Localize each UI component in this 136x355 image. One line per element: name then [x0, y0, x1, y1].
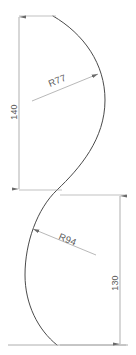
- radius-label-r94: R94: [57, 231, 78, 248]
- radius-label-r77: R77: [47, 72, 68, 89]
- radius-callout-r94-group: R94: [33, 229, 96, 255]
- dimension-label-140: 140: [9, 104, 19, 120]
- technical-drawing-canvas: 140 130 R77 R94: [0, 0, 136, 355]
- dimension-140-group: 140: [9, 16, 62, 190]
- s-curve-profile: [25, 16, 105, 345]
- radius-callout-r77-group: R77: [32, 72, 98, 101]
- drawing-svg: 140 130 R77 R94: [0, 0, 136, 355]
- profile-geometry: [25, 16, 105, 345]
- dimension-label-130: 130: [110, 275, 120, 291]
- dimension-130-group: 130: [60, 195, 126, 345]
